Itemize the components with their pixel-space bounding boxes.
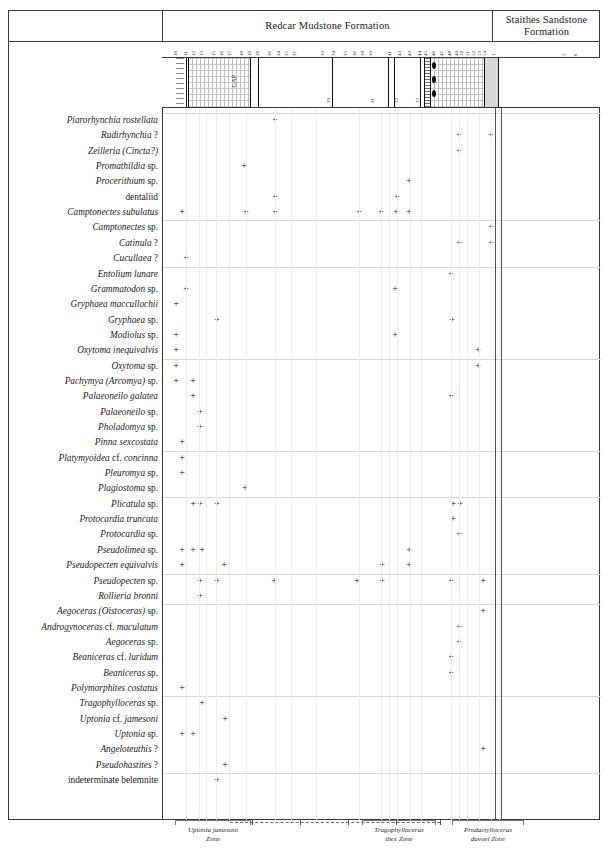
occurrence-marker: + [190, 545, 196, 555]
bed-number: 5 [561, 54, 566, 57]
taxon-label: Camptonectes subulatus [67, 205, 158, 219]
nodule-marker [432, 62, 436, 69]
lithology-bed-boundary [188, 58, 189, 108]
range-chart-root: Redcar Mudstone Formation Staithes Sands… [0, 0, 608, 863]
biozone-connector [230, 822, 440, 823]
column-guide [229, 108, 230, 820]
bed-number: 39 [368, 51, 373, 56]
taxon-label: Pholadomya sp. [98, 420, 158, 434]
occurrence-marker: + [221, 560, 227, 570]
occurrence-marker: + [199, 545, 205, 555]
taxon-label: Uptonia cf. jamesoni [80, 712, 158, 726]
taxon-label: dentaliid [125, 190, 158, 204]
taxon-label: Cucullaea ? [113, 251, 158, 265]
occurrence-marker: + [179, 683, 185, 693]
bed-number: 51 [465, 51, 470, 56]
taxon-label: Uptonia sp. [115, 727, 158, 741]
taxon-label: Pseudohastites ? [96, 758, 158, 772]
bed-number: 6 [573, 54, 578, 57]
taxon-label: Rudirhynchia ? [101, 128, 158, 142]
lithology-bed-boundary [498, 58, 499, 108]
bed-number: 10 [173, 51, 178, 56]
bed-sub-number: 29 [326, 98, 331, 103]
taxon-label: Aegoceras sp. [106, 635, 158, 649]
taxon-label: Protocardia sp. [100, 527, 158, 541]
bed-number: 47 [439, 51, 444, 56]
bed-number: 30 [267, 51, 272, 56]
occurrence-marker: + [222, 714, 228, 724]
lithology-segment-plain [498, 58, 600, 108]
formation-label-staithes: Staithes Sandstone Formation [493, 14, 600, 37]
column-guide [275, 108, 276, 820]
taxon-label: Angeloteuthis ? [100, 742, 158, 756]
occurrence-marker: + [190, 729, 196, 739]
taxon-label: Zeilleria (Cincta?) [88, 144, 158, 158]
bed-number: 34 [276, 51, 281, 56]
taxon-label: Pinna sexcostata [95, 435, 158, 449]
lithology-bed-boundary [420, 58, 421, 108]
occurrence-marker: + [179, 729, 185, 739]
taxon-label: Gryphaea sp. [108, 313, 158, 327]
column-guide [467, 108, 468, 820]
occurrence-marker: + [199, 698, 205, 708]
column-guide [499, 108, 500, 820]
lithology-segment-plain [332, 58, 388, 108]
bed-number: 37 [292, 51, 297, 56]
biozone-band: Uptonia jamesoniZoneTragophyllocerasibex… [8, 820, 600, 863]
occurrence-marker: + [480, 606, 486, 616]
column-guide [316, 108, 317, 820]
header-blank-cell [8, 10, 162, 42]
column-guide [451, 108, 452, 820]
column-guide [186, 108, 187, 820]
formation-label-redcar: Redcar Mudstone Formation [265, 20, 389, 32]
column-guide [421, 108, 422, 820]
occurrence-marker: + [179, 468, 185, 478]
column-guide [359, 108, 360, 820]
bed-number: 1 [491, 54, 496, 57]
lithology-segment-plain [258, 58, 332, 108]
bed-number-band: 1011121315161718192030343537333435363839… [162, 42, 600, 58]
bed-sub-number: 33 [415, 98, 420, 103]
occurrence-marker: + [222, 760, 228, 770]
bed-number: 13 [199, 51, 204, 56]
lithology-column: GAP [162, 58, 600, 108]
column-guide [397, 108, 398, 820]
taxon-label: Androgynoceras cf. maculatum [41, 620, 158, 634]
taxon-label: Procerithium sp. [96, 174, 158, 188]
occurrence-marker: + [480, 576, 486, 586]
lithology-bed-boundary [250, 58, 251, 108]
column-guide [389, 108, 390, 820]
column-guide [479, 108, 480, 820]
gap-label: GAP [231, 75, 237, 88]
occurrence-marker: + [179, 207, 185, 217]
lithology-segment-plain [162, 58, 176, 108]
occurrence-marker: + [179, 437, 185, 447]
bed-number: 11 [183, 51, 188, 56]
lithology-bed-boundary [424, 58, 425, 108]
taxon-label: Promathildia sp. [96, 159, 158, 173]
bed-number: 43 [407, 51, 412, 56]
formation-header-staithes: Staithes Sandstone Formation [492, 10, 600, 42]
taxon-label: Oxytoma inequivalvis [77, 343, 158, 357]
column-guide [206, 108, 207, 820]
bed-number: 41 [387, 51, 392, 56]
taxon-label: Rollieria bronni [98, 589, 158, 603]
bed-number: 18 [239, 51, 244, 56]
biozone-brace [452, 820, 524, 825]
taxon-label: Tragophylloceras sp. [79, 696, 158, 710]
biozone-label: Prodactyliocerasdavoei Zone [452, 826, 524, 843]
bed-number: 44 [417, 51, 422, 56]
nodule-marker [432, 76, 436, 83]
lithology-segment-sand [484, 58, 498, 108]
column-guide [291, 108, 292, 820]
bed-number: 35 [284, 51, 289, 56]
taxon-label: Plicatula sp. [111, 497, 158, 511]
taxon-label: Palaeoneilo galatea [83, 389, 158, 403]
taxon-label: Palaeoneilo sp. [100, 405, 158, 419]
bed-number: 20 [255, 51, 260, 56]
taxon-label: Pseudolimea sp. [97, 543, 158, 557]
occurrence-marker: + [173, 345, 179, 355]
formation-boundary-line [501, 108, 502, 820]
biozone-label: Uptonia jamesoniZone [175, 826, 251, 843]
column-guide [459, 108, 460, 820]
